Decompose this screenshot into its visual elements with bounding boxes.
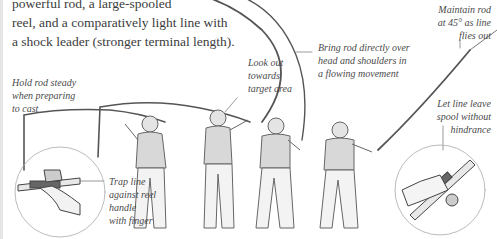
caption-line: towards: [248, 69, 292, 82]
caption-line: Bring rod directly over: [318, 41, 410, 54]
caption-hold-rod: Hold rod steady when preparing to cast: [12, 76, 76, 115]
figures: [125, 110, 372, 228]
caption-line: Look out: [248, 56, 292, 69]
caption-let-line: Let line leave spool without hindrance: [437, 97, 491, 136]
caption-line: a flowing movement: [318, 67, 410, 80]
caption-line: head and shoulders in: [318, 54, 410, 67]
caption-line: Hold rod steady: [12, 76, 76, 89]
figure-stance-4: [320, 122, 372, 228]
caption-bring-rod: Bring rod directly over head and shoulde…: [318, 41, 410, 80]
caption-line: when preparing: [12, 89, 76, 102]
figure-stance-3: [256, 118, 300, 228]
figure-stance-2: [204, 110, 248, 228]
caption-line: flies out: [438, 29, 491, 42]
caption-trap-line: Trap line against reel handle with finge…: [109, 175, 156, 227]
casting-illustration: [0, 0, 497, 239]
caption-line: at 45° as line: [438, 16, 491, 29]
caption-line: to cast: [12, 102, 76, 115]
caption-line: with finger: [109, 214, 156, 227]
caption-look-out: Look out towards target area: [248, 56, 292, 95]
caption-maintain-rod: Maintain rod at 45° as line flies out: [438, 3, 491, 42]
caption-line: Maintain rod: [438, 3, 491, 16]
caption-line: handle: [109, 201, 156, 214]
caption-line: target area: [248, 82, 292, 95]
caption-line: hindrance: [437, 123, 491, 136]
caption-line: spool without: [437, 110, 491, 123]
caption-line: Trap line: [109, 175, 156, 188]
caption-line: against reel: [109, 188, 156, 201]
caption-line: Let line leave: [437, 97, 491, 110]
